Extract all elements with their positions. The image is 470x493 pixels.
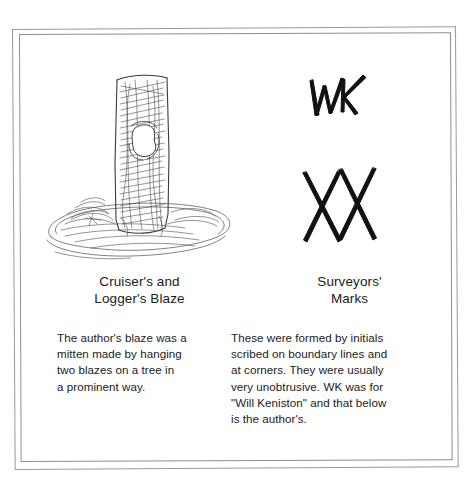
paragraph-line: is the author's. — [231, 411, 446, 427]
paragraph-line: These were formed by initials — [231, 330, 446, 346]
paragraph-line: mitten made by hanging — [57, 346, 247, 362]
paragraph-line: The author's blaze was a — [57, 330, 247, 346]
caption-line: Cruiser's and — [37, 273, 242, 290]
caption-surveyors-marks: Surveyors' Marks — [267, 273, 432, 307]
paragraph-line: very unobtrusive. WK was for — [231, 379, 446, 395]
caption-line: Surveyors' — [267, 273, 432, 290]
paragraph-line: "Will Keniston" and that below — [231, 395, 446, 411]
caption-cruisers-and-loggers-blaze: Cruiser's and Logger's Blaze — [37, 273, 242, 307]
caption-line: Marks — [267, 290, 432, 307]
caption-line: Logger's Blaze — [37, 290, 242, 307]
paragraph-line: a prominent way. — [57, 379, 247, 395]
figure-content: Cruiser's and Logger's Blaze Surveyors' … — [19, 34, 451, 462]
double-x-mark-icon — [297, 164, 383, 254]
wk-monogram-mark-icon — [301, 68, 379, 128]
paragraph-line: two blazes on a tree in — [57, 362, 247, 378]
paragraph-line: scribed on boundary lines and — [231, 346, 446, 362]
figure-page: Cruiser's and Logger's Blaze Surveyors' … — [0, 0, 470, 493]
blazed-tree-sketch-icon — [35, 64, 240, 269]
paragraph-line: at corners. They were usually — [231, 362, 446, 378]
paragraph-blaze-description: The author's blaze was a mitten made by … — [57, 330, 247, 395]
paragraph-surveyors-marks-description: These were formed by initials scribed on… — [231, 330, 446, 427]
